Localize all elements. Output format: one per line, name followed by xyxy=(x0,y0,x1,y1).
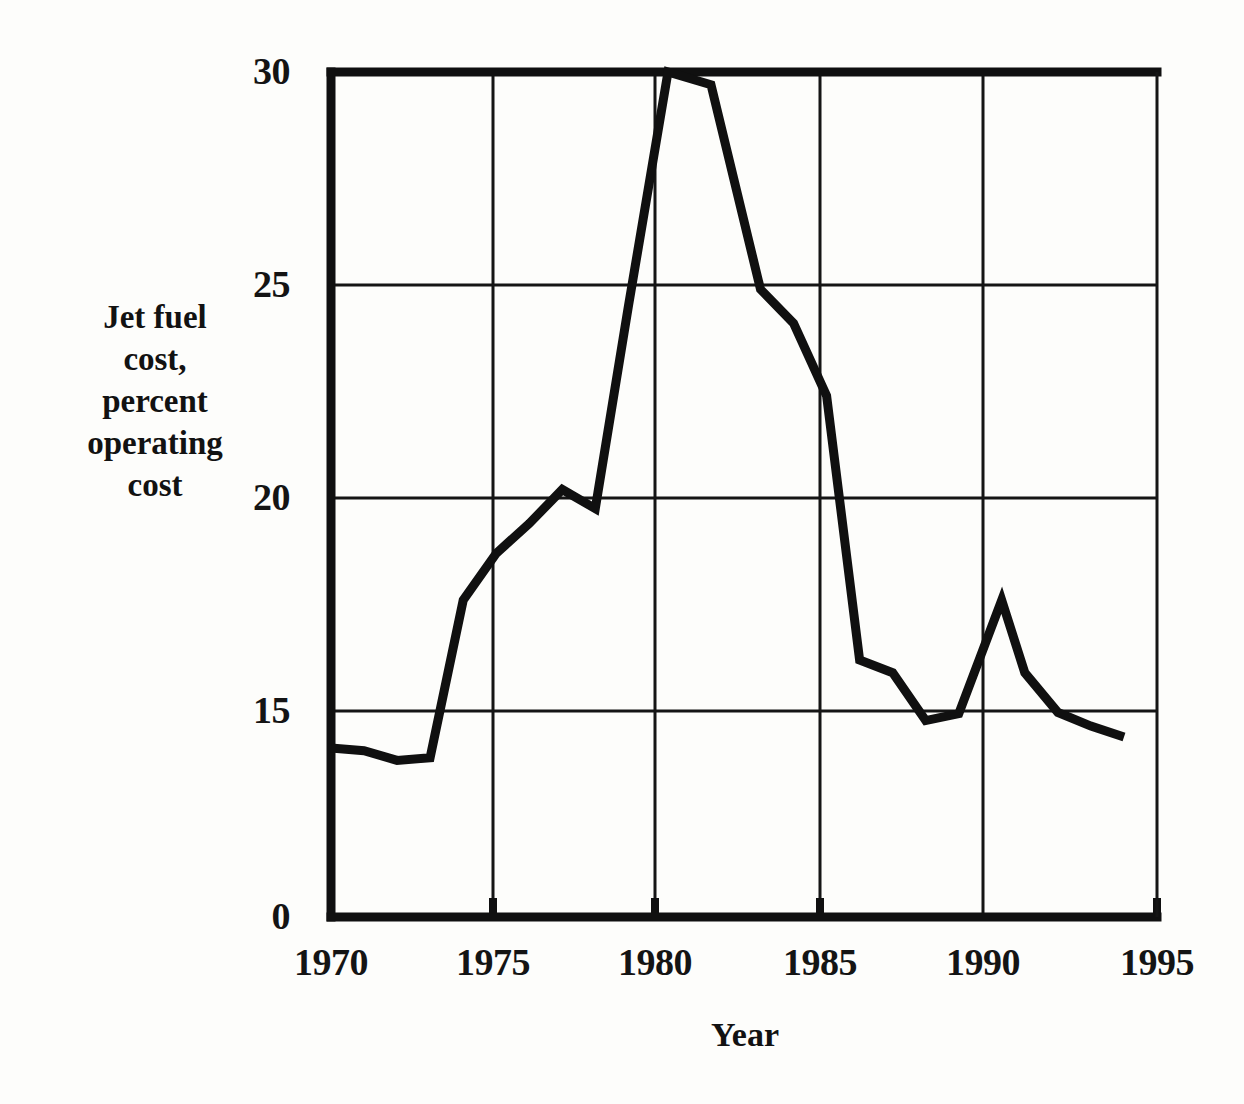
chart-figure: 30 25 20 15 0 Jet fuel cost, percent ope… xyxy=(0,0,1244,1104)
data-line-jet-fuel-cost xyxy=(331,72,1124,760)
plot-area xyxy=(0,0,1244,1104)
axis-frame xyxy=(331,72,1157,917)
